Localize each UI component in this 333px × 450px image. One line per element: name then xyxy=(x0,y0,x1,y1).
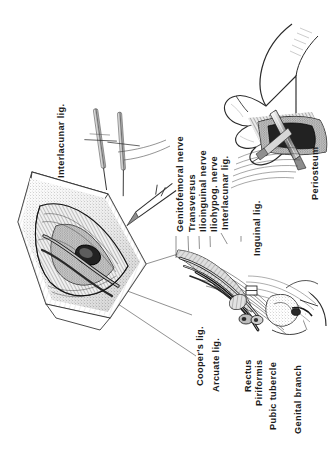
label-interlacunar-lig: Interlacunar lig. xyxy=(221,156,230,230)
panel-incision xyxy=(18,106,180,330)
inguinal-marker xyxy=(246,286,257,295)
label-genitofemoral-nerve: Genitofemoral nerve xyxy=(176,136,185,232)
label-iliohypogastric-nerve: Iliohypog. nerve xyxy=(210,156,219,232)
label-arcuate-lig: Arcuate lig. xyxy=(212,338,221,392)
label-pubic-tubercle: Pubic tubercle xyxy=(269,362,278,430)
label-periosteum: Periosteum xyxy=(311,146,320,200)
label-piriformis: Piriformis xyxy=(255,360,264,406)
suture-needles xyxy=(80,106,170,197)
forceps xyxy=(117,178,180,226)
label-interlacunar-lig-top: Interlacunar lig. xyxy=(57,104,66,178)
label-transversus: Transversus xyxy=(188,174,197,232)
illustration-plate: Interlacunar lig. Genitofemoral nerve Tr… xyxy=(0,0,333,450)
label-ilioinguinal-nerve: Ilioinguinal nerve xyxy=(199,150,208,232)
label-inguinal-lig: Inguinal lig. xyxy=(253,200,262,256)
anatomical-artwork xyxy=(0,0,333,450)
label-coopers-lig: Cooper's lig. xyxy=(196,326,205,386)
label-genital-branch: Genital branch xyxy=(294,365,303,434)
label-rectus: Rectus xyxy=(244,359,253,392)
